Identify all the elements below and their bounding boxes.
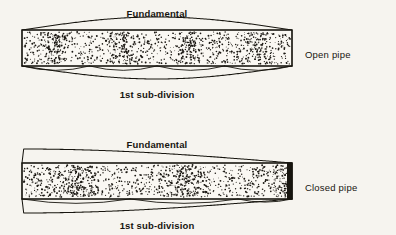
open-pipe-body	[22, 30, 292, 66]
figure-canvas: Fundamental 1st sub-division Open pipe F…	[0, 0, 396, 235]
open-pipe-subdivision-label: 1st sub-division	[120, 89, 195, 100]
closed-end-cap-icon	[288, 163, 293, 199]
subdivision-arc	[225, 66, 293, 70]
closed-pipe-side-label: Closed pipe	[305, 182, 357, 193]
closed-pipe-diagram: Fundamental 1st sub-division Closed pipe	[22, 139, 357, 231]
subdivision-arc	[22, 199, 130, 203]
subdivision-arc	[130, 199, 238, 203]
open-pipe-side-label: Open pipe	[305, 49, 351, 60]
closed-pipe-subdivision-label: 1st sub-division	[120, 220, 195, 231]
open-pipe-subdivision-arcs	[22, 66, 292, 70]
subdivision-arc	[22, 66, 90, 70]
pipe-standing-wave-figure: Fundamental 1st sub-division Open pipe F…	[0, 0, 396, 235]
closed-pipe-fundamental-label: Fundamental	[127, 139, 188, 150]
subdivision-arc	[90, 66, 158, 70]
closed-pipe-body	[22, 163, 292, 199]
open-pipe-diagram: Fundamental 1st sub-division Open pipe	[22, 8, 351, 100]
subdivision-arc	[157, 66, 225, 70]
